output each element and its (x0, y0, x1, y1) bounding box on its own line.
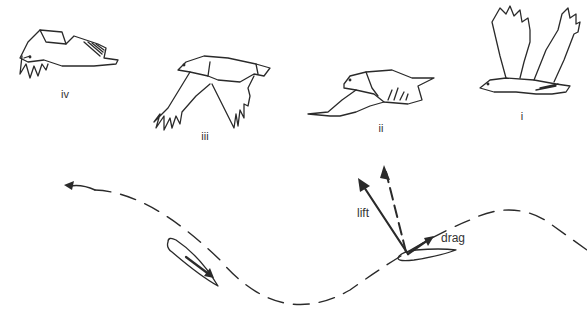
stage-label-i: i (521, 110, 523, 122)
bird-iii-icon (154, 56, 270, 130)
bird-flight-diagram (0, 0, 587, 328)
flight-path-line (95, 190, 587, 305)
drag-arrow-icon (408, 240, 428, 254)
stage-label-iv: iv (61, 88, 69, 100)
lift-label: lift (357, 206, 369, 220)
stage-label-iii: iii (201, 130, 208, 142)
resultant-arrow-icon (386, 172, 406, 252)
bird-iv-icon (20, 30, 118, 78)
drag-label: drag (441, 231, 465, 245)
upstroke-force-vectors (358, 165, 456, 261)
bird-i-icon (480, 6, 580, 94)
path-arrowhead-icon (70, 186, 95, 191)
bird-ii-icon (308, 70, 434, 116)
stage-label-ii: ii (379, 122, 384, 134)
downstroke-wing-section (168, 238, 219, 286)
